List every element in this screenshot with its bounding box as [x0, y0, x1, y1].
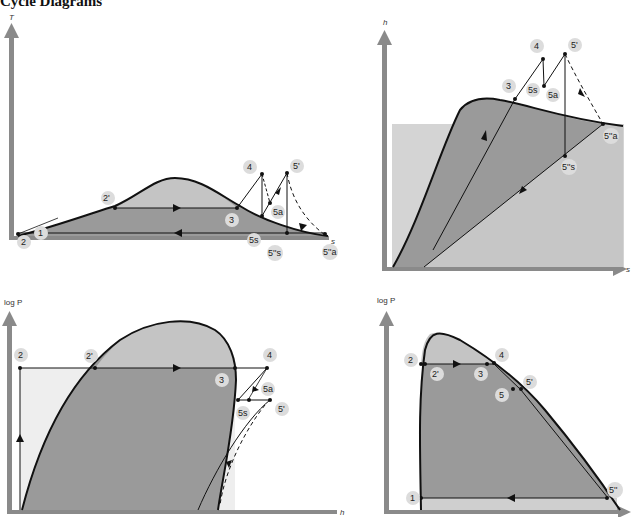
- cycle-diagrams-canvas: T s 1 2 2' 3: [0, 0, 631, 517]
- label-2: 2: [21, 237, 26, 247]
- label-2-prime: 2': [86, 351, 93, 361]
- label-5-prime: 5': [278, 404, 285, 414]
- label-5-double-prime-s: 5''s: [562, 162, 575, 172]
- label-2: 2: [18, 350, 23, 360]
- label-5-double-prime-a: 5''a: [323, 247, 336, 257]
- y-axis-label: log P: [4, 298, 22, 307]
- diagram-logp-h-right: log P 1 2 2' 3 4 5 5' 5'': [377, 296, 631, 517]
- label-3: 3: [219, 375, 224, 385]
- label-5-prime: 5': [571, 40, 578, 50]
- label-4: 4: [534, 41, 539, 51]
- y-axis-label: log P: [377, 296, 395, 305]
- label-5: 5: [499, 390, 504, 400]
- y-axis-label: h: [383, 18, 388, 27]
- y-axis: [9, 38, 14, 240]
- label-5-double-prime-a: 5''a: [604, 131, 617, 141]
- label-5s: 5s: [528, 85, 538, 95]
- label-4: 4: [267, 350, 272, 360]
- label-5-double-prime: 5'': [609, 485, 618, 495]
- x-axis-label: h: [340, 508, 345, 517]
- y-axis-arrow-icon: [4, 23, 19, 38]
- x-axis-label: s: [626, 265, 630, 274]
- label-3: 3: [478, 369, 483, 379]
- label-5a: 5a: [263, 384, 273, 394]
- diagram-t-s: T s 1 2 2' 3: [4, 13, 338, 261]
- x-axis: [9, 236, 329, 240]
- label-1: 1: [410, 493, 415, 503]
- label-3: 3: [506, 81, 511, 91]
- diagram-h-s: h s 3 4 5s 5a 5' 5''s 5''a: [377, 18, 630, 276]
- label-2-prime: 2': [432, 369, 439, 379]
- label-3: 3: [229, 215, 234, 225]
- label-2-prime: 2': [103, 193, 110, 203]
- label-5s: 5s: [249, 235, 259, 245]
- label-5s: 5s: [238, 408, 248, 418]
- y-axis-label: T: [9, 13, 15, 22]
- label-5-prime: 5': [526, 377, 533, 387]
- label-2: 2: [408, 355, 413, 365]
- label-4: 4: [499, 350, 504, 360]
- label-5-prime: 5': [293, 161, 300, 171]
- label-5a: 5a: [548, 90, 558, 100]
- diagram-logp-h-left: log P h 2 2' 3 4 5s 5a 5': [2, 298, 345, 517]
- label-1: 1: [38, 228, 43, 238]
- label-5a: 5a: [273, 207, 283, 217]
- label-4: 4: [247, 162, 252, 172]
- label-5-double-prime-s: 5''s: [268, 248, 281, 258]
